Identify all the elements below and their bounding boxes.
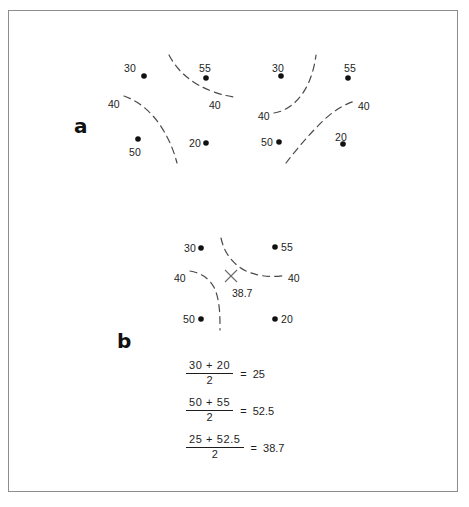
contour-label-a-left-west-40: 40 — [108, 98, 120, 110]
point-label-a-right-55: 55 — [344, 62, 356, 74]
point-label-a-right-20: 20 — [335, 131, 347, 143]
equals-sign: = — [240, 405, 246, 417]
fraction: 25 + 52.5 2 — [186, 434, 244, 460]
panel-letter-b: b — [117, 331, 131, 351]
equation-row: 25 + 52.5 2 = 38.7 — [186, 432, 356, 462]
equation-result: 52.5 — [253, 405, 274, 417]
point-label-b-30: 30 — [184, 242, 196, 254]
fraction-numerator: 25 + 52.5 — [186, 434, 244, 447]
point-label-a-left-30: 30 — [124, 62, 136, 74]
point-label-a-left-55: 55 — [199, 62, 211, 74]
contour-label-b-west-40: 40 — [174, 272, 186, 284]
figure-root: a b 30 55 20 50 40 40 30 55 20 50 40 40 … — [0, 0, 469, 507]
fraction-numerator: 30 + 20 — [186, 360, 233, 373]
equation-list: 30 + 20 2 = 25 50 + 55 2 = 52.5 25 + 52.… — [186, 358, 356, 469]
point-label-b-50: 50 — [183, 313, 195, 325]
fraction-denominator: 2 — [212, 448, 218, 461]
contour-label-a-left-east-40: 40 — [209, 99, 221, 111]
point-label-a-left-20: 20 — [189, 137, 201, 149]
point-label-b-20: 20 — [281, 313, 293, 325]
fraction: 30 + 20 2 — [186, 360, 233, 386]
fraction-denominator: 2 — [207, 411, 213, 424]
equals-sign: = — [240, 368, 246, 380]
estimate-value-label: 38.7 — [232, 287, 252, 299]
contour-label-a-right-east-40: 40 — [358, 100, 370, 112]
equation-row: 30 + 20 2 = 25 — [186, 358, 356, 388]
equation-result: 38.7 — [263, 442, 284, 454]
point-label-a-right-50: 50 — [261, 136, 273, 148]
fraction-numerator: 50 + 55 — [186, 397, 233, 410]
equation-row: 50 + 55 2 = 52.5 — [186, 395, 356, 425]
contour-label-a-right-west-40: 40 — [258, 110, 270, 122]
panel-letter-a: a — [74, 116, 88, 136]
fraction: 50 + 55 2 — [186, 397, 233, 423]
point-label-b-55: 55 — [281, 241, 293, 253]
fraction-denominator: 2 — [207, 374, 213, 387]
point-label-a-left-50: 50 — [129, 146, 141, 158]
contour-label-b-east-40: 40 — [288, 272, 300, 284]
equation-result: 25 — [253, 368, 265, 380]
equals-sign: = — [251, 442, 257, 454]
point-label-a-right-30: 30 — [272, 62, 284, 74]
